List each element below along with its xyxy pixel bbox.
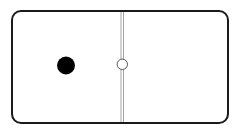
center-spinner-icon	[117, 59, 127, 69]
domino-tile[interactable]	[0, 0, 244, 130]
left-half[interactable]	[57, 57, 75, 75]
pip-icon	[57, 57, 75, 75]
